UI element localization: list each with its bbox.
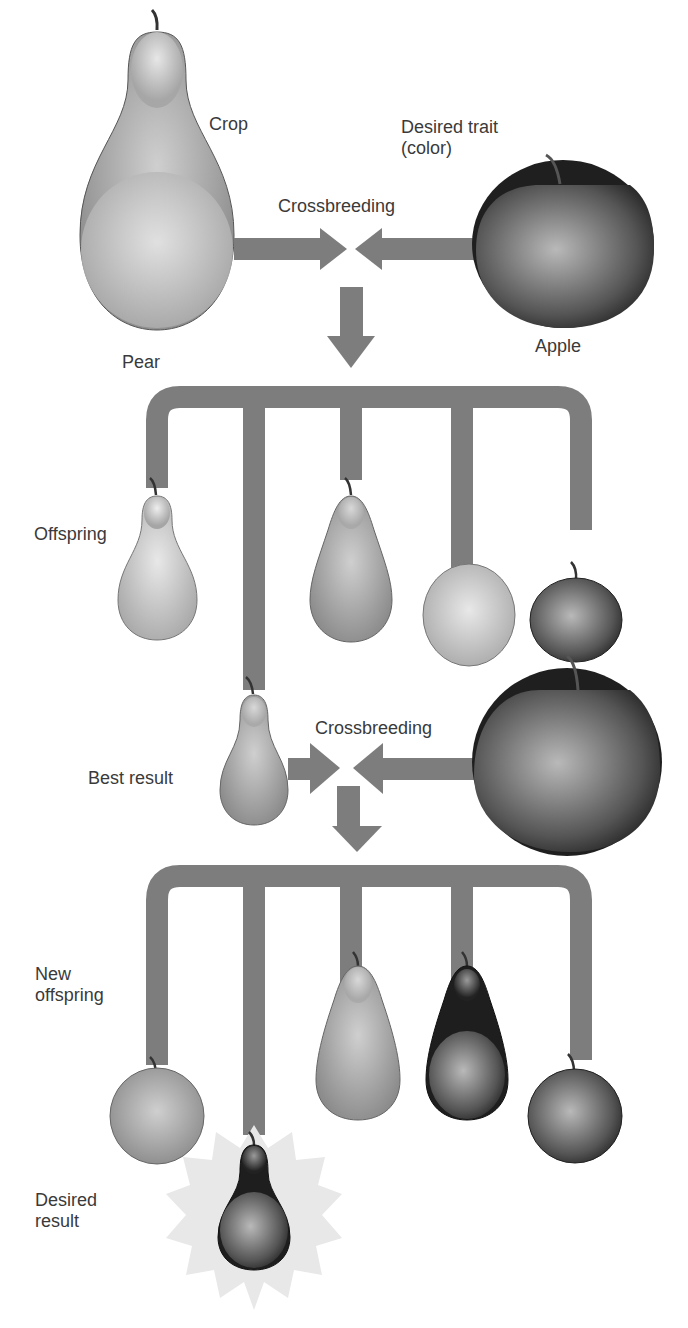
offspring-light-pear-icon <box>118 478 197 640</box>
arrow-down-icon <box>327 287 375 368</box>
label-best-result: Best result <box>88 768 173 789</box>
pear-parent-icon <box>80 10 234 330</box>
new-offspring-dark-pear-icon <box>426 952 508 1120</box>
label-offspring: Offspring <box>34 524 107 545</box>
label-desired-trait: Desired trait (color) <box>401 117 498 159</box>
label-crop: Crop <box>209 114 248 135</box>
label-crossbreeding-2: Crossbreeding <box>315 718 432 739</box>
offspring-dark-apple-icon <box>530 562 622 662</box>
label-apple: Apple <box>535 336 581 357</box>
apple-parent-2-icon <box>472 656 662 856</box>
new-offspring-medium-pear-icon <box>316 952 400 1120</box>
label-new-offspring: New offspring <box>35 964 104 1006</box>
new-offspring-dark-apple-icon <box>528 1054 622 1163</box>
apple-parent-icon <box>472 155 654 328</box>
best-result-pear-icon <box>220 677 288 825</box>
arrow-down-icon-2 <box>332 786 382 852</box>
arrow-right-head-2 <box>283 743 340 794</box>
offspring-light-apple-icon <box>423 564 515 666</box>
label-desired-result: Desired result <box>35 1190 97 1232</box>
arrow-left-icon-2 <box>353 743 474 794</box>
label-crossbreeding-1: Crossbreeding <box>278 196 395 217</box>
arrow-right-icon <box>234 228 347 270</box>
label-pear: Pear <box>122 352 160 373</box>
new-offspring-apple-icon <box>110 1057 204 1164</box>
arrow-left-icon <box>355 228 478 270</box>
offspring-medium-pear-icon <box>310 478 392 642</box>
